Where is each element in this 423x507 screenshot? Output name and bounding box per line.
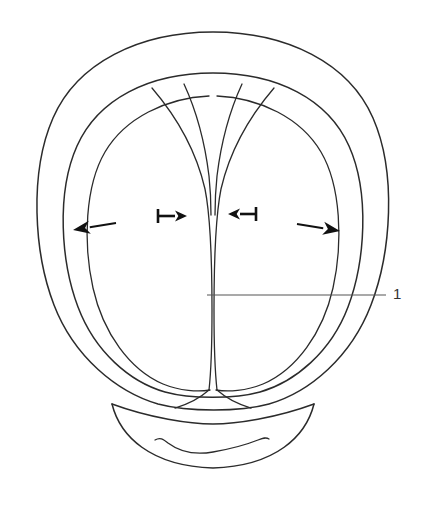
right-lobe-bottom-flare — [217, 390, 251, 408]
central-cleft-inner-left-line — [184, 84, 211, 215]
arrow-layer — [73, 207, 340, 235]
left-lobe-outline — [87, 96, 210, 391]
diagram-canvas — [0, 0, 423, 507]
chin-wave-outline — [155, 438, 269, 453]
central-cleft-left-line — [152, 88, 212, 390]
large-left-arrow-icon — [73, 221, 116, 234]
left-lobe-bottom-flare — [175, 390, 209, 408]
inner-ring-outline — [63, 73, 363, 397]
small-right-arrow-with-bar-icon — [158, 209, 187, 223]
right-lobe-outline — [216, 96, 339, 391]
outer-ring-outline — [37, 32, 389, 410]
small-left-arrow-with-bar-icon — [228, 207, 256, 221]
central-cleft-right-line — [214, 88, 274, 390]
callout-label-1: 1 — [393, 286, 401, 301]
anatomical-line-diagram: 1 — [0, 0, 423, 507]
neck-arc-outline — [112, 404, 314, 424]
large-right-arrow-icon — [297, 222, 340, 235]
central-cleft-inner-right-line — [215, 84, 242, 215]
